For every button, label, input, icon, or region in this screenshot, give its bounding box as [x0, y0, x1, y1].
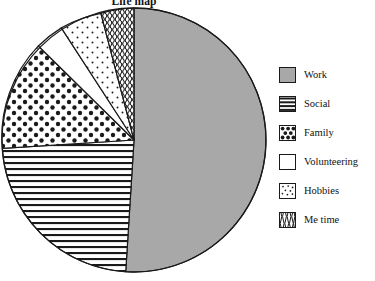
- legend-item-volunteering[interactable]: Volunteering: [279, 147, 375, 176]
- legend-label-me-time: Me time: [304, 214, 339, 225]
- legend-label-hobbies: Hobbies: [304, 185, 339, 196]
- legend-swatch-hobbies-icon: [279, 183, 296, 199]
- legend-item-me-time[interactable]: Me time: [279, 205, 375, 234]
- legend-swatch-social-icon: [279, 96, 296, 112]
- legend-swatch-family-icon: [279, 125, 296, 141]
- legend-item-work[interactable]: Work: [279, 60, 375, 89]
- chart-legend: Work Social: [279, 60, 375, 234]
- legend-swatch-work-icon: [279, 67, 296, 83]
- legend-label-work: Work: [304, 69, 327, 80]
- legend-item-hobbies[interactable]: Hobbies: [279, 176, 375, 205]
- pie-slice-social: [2, 140, 134, 272]
- pie-slice-work: [126, 8, 266, 272]
- legend-label-volunteering: Volunteering: [304, 156, 358, 167]
- pie-chart-figure: Life map: [0, 0, 375, 281]
- legend-swatch-volunteering-icon: [279, 154, 296, 170]
- legend-item-social[interactable]: Social: [279, 89, 375, 118]
- legend-label-family: Family: [304, 127, 334, 138]
- legend-item-family[interactable]: Family: [279, 118, 375, 147]
- legend-label-social: Social: [304, 98, 330, 109]
- legend-swatch-me-time-icon: [279, 212, 296, 228]
